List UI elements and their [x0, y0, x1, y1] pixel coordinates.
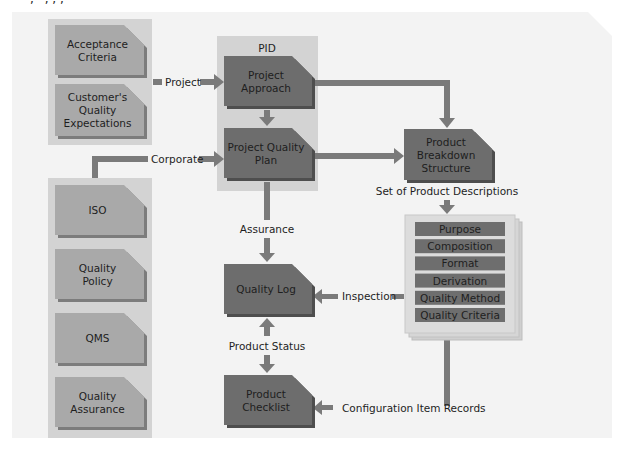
- label-set-of-product-descriptions: Set of Product Descriptions: [376, 185, 519, 197]
- description-item-label: Format: [441, 257, 478, 269]
- quality-path-diagram: , ' , , , PID: [0, 0, 627, 450]
- description-item-label: Quality Criteria: [420, 309, 500, 321]
- pa-to-pbs-v: [444, 80, 450, 119]
- doc-label-line: Criteria: [78, 51, 117, 63]
- corporate-shaft-left: [92, 156, 148, 162]
- doc-label-line: Project Quality: [228, 141, 305, 153]
- pa-to-pbs-h: [313, 80, 450, 86]
- description-item-label: Derivation: [433, 275, 488, 287]
- pid-title: PID: [258, 42, 276, 54]
- assurance-shaft-bottom: [264, 238, 270, 254]
- label-configuration-item-records: Configuration Item Records: [342, 402, 486, 414]
- doc-label-line: Approach: [241, 82, 291, 94]
- doc-label-line: Quality Log: [236, 283, 296, 295]
- label-product-status: Product Status: [229, 340, 306, 352]
- description-item-label: Quality Method: [420, 292, 500, 304]
- doc-label-line: Customer's: [68, 91, 127, 103]
- description-item-label: Composition: [427, 240, 493, 252]
- project-arrow-shaft: [200, 79, 216, 85]
- status-down-shaft: [264, 355, 270, 365]
- config-riser: [444, 340, 450, 406]
- doc-label-line: Breakdown: [417, 149, 476, 161]
- doc-label-line: Quality: [79, 390, 117, 402]
- doc-label-line: ISO: [88, 204, 106, 216]
- doc-label-line: QMS: [86, 332, 110, 344]
- label-assurance: Assurance: [240, 223, 294, 235]
- doc-label-line: Product: [246, 388, 286, 400]
- assurance-shaft-top: [264, 182, 270, 220]
- doc-label-line: Expectations: [64, 117, 132, 129]
- label-inspection: Inspection: [342, 290, 396, 302]
- doc-label-line: Product: [426, 136, 466, 148]
- status-up-shaft: [264, 326, 270, 336]
- doc-label-line: Assurance: [70, 403, 124, 415]
- doc-label-line: Structure: [422, 162, 471, 174]
- doc-label-line: Plan: [255, 154, 277, 166]
- project-arrow-tail: [153, 79, 162, 85]
- doc-label-line: Quality: [79, 104, 117, 116]
- header-fragment: , ' , , ,: [30, 0, 64, 6]
- label-project: Project: [165, 76, 201, 88]
- pqp-to-pbs-shaft: [313, 153, 395, 159]
- product-descriptions-stack: PurposeCompositionFormatDerivationQualit…: [405, 215, 522, 340]
- doc-label-line: Policy: [82, 275, 112, 287]
- label-corporate: Corporate: [151, 153, 204, 165]
- pa-to-pqp-shaft: [264, 110, 270, 118]
- doc-label-line: Quality: [79, 262, 117, 274]
- doc-label-line: Project: [248, 69, 284, 81]
- inspection-shaft: [320, 294, 338, 299]
- doc-label-line: Checklist: [242, 401, 290, 413]
- doc-label-line: Acceptance: [67, 38, 128, 50]
- description-item-label: Purpose: [439, 223, 481, 235]
